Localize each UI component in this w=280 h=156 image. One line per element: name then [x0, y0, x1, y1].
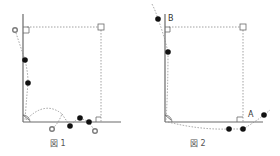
- filled-point: [261, 112, 267, 118]
- right-angle-mark-bottom-right: [96, 117, 101, 122]
- dashed-curve-left: [152, 4, 168, 120]
- filled-point: [22, 57, 28, 63]
- figure-2-caption: 図 2: [190, 139, 206, 148]
- open-point: [13, 28, 18, 33]
- diagram-canvas: 図 1 B A 図 2: [0, 0, 280, 156]
- open-point: [93, 129, 98, 134]
- figure-2: B A 図 2: [152, 4, 270, 148]
- filled-point: [226, 126, 232, 132]
- label-a: A: [248, 110, 254, 119]
- filled-point: [25, 80, 31, 86]
- figure-1: 図 1: [13, 14, 121, 148]
- figure-1-caption: 図 1: [50, 139, 66, 148]
- dashed-arc-lower: [26, 108, 62, 129]
- filled-point: [155, 16, 161, 22]
- filled-point: [67, 123, 73, 129]
- label-b: B: [168, 14, 174, 23]
- filled-point: [165, 49, 171, 55]
- filled-point: [240, 126, 246, 132]
- right-angle-mark-top-left: [165, 27, 170, 32]
- filled-point: [86, 119, 92, 125]
- corner-square-top-right: [240, 24, 246, 30]
- open-point: [50, 127, 55, 132]
- right-angle-mark-top-left: [23, 27, 29, 33]
- corner-square-top-right: [98, 24, 104, 30]
- dashed-curve-bottom: [168, 110, 270, 129]
- dashed-curve-left: [15, 30, 28, 120]
- right-angle-mark-bottom-right: [237, 117, 243, 122]
- filled-point: [77, 115, 83, 121]
